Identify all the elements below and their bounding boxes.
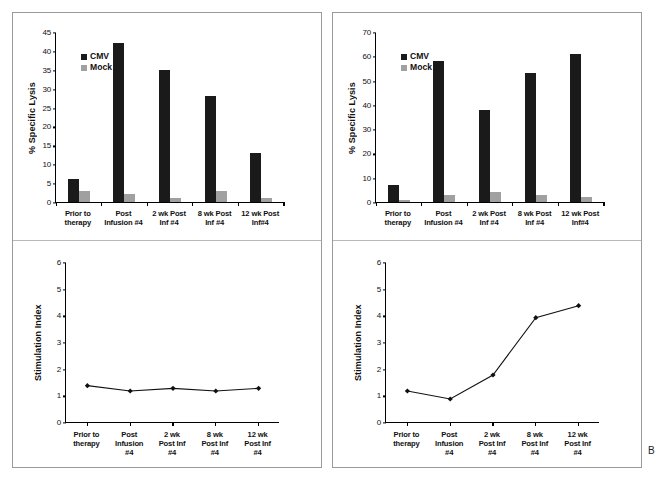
bar-cmv <box>388 185 399 202</box>
y-axis-tick-mark <box>63 342 67 343</box>
x-axis-tick-mark <box>56 202 57 206</box>
chart-legend: CMVMock <box>81 51 112 73</box>
x-axis-tick-mark <box>407 422 408 426</box>
y-axis-tick-mark <box>63 289 67 290</box>
bar-cmv <box>159 70 170 202</box>
y-axis-tick-mark <box>383 342 387 343</box>
x-axis-tick-label: 12 wk Post Inf#4 <box>551 209 609 227</box>
legend-label-cmv: CMV <box>90 51 109 62</box>
y-axis-tick-mark <box>383 289 387 290</box>
bar-cmv <box>68 179 79 202</box>
bar-mock <box>581 197 592 202</box>
y-axis-title: % Specific Lysis <box>27 33 37 203</box>
bar-mock <box>79 191 90 202</box>
legend-item-mock: Mock <box>401 62 432 73</box>
chart-bottom-left-line: 0123456Stimulation IndexPrior to therapy… <box>13 241 321 468</box>
legend-item-cmv: CMV <box>81 51 112 62</box>
y-axis-title: Stimulation Index <box>33 263 43 423</box>
data-point <box>448 396 453 401</box>
y-axis-tick-mark <box>383 262 387 263</box>
x-axis-tick-mark <box>130 422 131 426</box>
y-axis-tick-mark <box>383 316 387 317</box>
x-axis-tick-mark <box>101 202 102 206</box>
x-axis-tick-mark <box>258 422 259 426</box>
plot-area: 0123456 <box>65 263 279 423</box>
x-axis-tick-mark <box>578 422 579 426</box>
x-axis-tick-mark <box>215 422 216 426</box>
bar-group <box>238 32 284 202</box>
panel-letter: B <box>648 445 655 456</box>
chart-top-right-bar: 010203040506070% Specific LysisPrior to … <box>333 13 641 240</box>
bar-cmv <box>113 43 124 202</box>
bar-group <box>558 32 604 202</box>
y-axis-tick-mark <box>383 422 387 423</box>
x-axis-tick-label: 12 wk Post Inf #4 <box>552 430 603 458</box>
line-series <box>386 263 600 423</box>
bar-mock <box>216 191 227 202</box>
x-axis-tick-mark <box>283 202 284 206</box>
legend-item-mock: Mock <box>81 62 112 73</box>
x-axis-tick-mark <box>172 422 173 426</box>
bar-cmv <box>479 110 490 202</box>
x-axis-tick-mark <box>147 202 148 206</box>
y-axis-tick-mark <box>63 262 67 263</box>
data-point <box>576 303 581 308</box>
line-series <box>66 263 280 423</box>
x-axis-tick-mark <box>192 202 193 206</box>
y-axis-tick-mark <box>63 396 67 397</box>
x-axis-tick-mark <box>238 202 239 206</box>
bar-cmv <box>205 96 216 202</box>
bar-mock <box>444 195 455 202</box>
bar-mock <box>399 200 410 202</box>
y-axis-title: % Specific Lysis <box>347 33 357 203</box>
x-axis-tick-mark <box>558 202 559 206</box>
chart-top-left-bar: 051015202530354045% Specific LysisPrior … <box>13 13 321 240</box>
x-axis-tick-mark <box>492 422 493 426</box>
y-axis-tick-mark <box>63 316 67 317</box>
y-axis-tick-mark <box>383 369 387 370</box>
x-axis-tick-mark <box>87 422 88 426</box>
legend-label-mock: Mock <box>90 62 112 73</box>
figure-root: 051015202530354045% Specific LysisPrior … <box>0 0 664 480</box>
data-point <box>405 388 410 393</box>
y-axis-tick-mark <box>63 369 67 370</box>
x-axis-tick-mark <box>603 202 604 206</box>
bar-cmv <box>433 61 444 202</box>
bar-group <box>147 32 193 202</box>
y-axis-tick-mark <box>63 422 67 423</box>
plot-area: 0123456 <box>385 263 599 423</box>
data-point <box>256 386 261 391</box>
chart-legend: CMVMock <box>401 51 432 73</box>
chart-bottom-right-line: 0123456Stimulation IndexPrior to therapy… <box>333 241 641 468</box>
bar-mock <box>170 198 181 202</box>
bar-mock <box>261 198 272 202</box>
bar-group <box>193 32 239 202</box>
legend-swatch-cmv <box>401 54 407 60</box>
x-axis-tick-mark <box>535 422 536 426</box>
bar-mock <box>536 195 547 202</box>
bar-group <box>467 32 513 202</box>
x-axis-tick-mark <box>421 202 422 206</box>
legend-label-mock: Mock <box>410 62 432 73</box>
legend-swatch-cmv <box>81 54 87 60</box>
bar-cmv <box>250 153 261 202</box>
bar-group <box>513 32 559 202</box>
x-axis-tick-mark <box>467 202 468 206</box>
x-axis-tick-mark <box>512 202 513 206</box>
line-path <box>407 306 578 399</box>
data-point <box>170 386 175 391</box>
panel-right: 010203040506070% Specific LysisPrior to … <box>332 12 642 468</box>
bar-mock <box>490 192 501 202</box>
legend-label-cmv: CMV <box>410 51 429 62</box>
bar-cmv <box>570 54 581 202</box>
bar-cmv <box>525 73 536 202</box>
x-axis-tick-mark <box>450 422 451 426</box>
x-axis-tick-label: 12 wk Post Inf#4 <box>231 209 289 227</box>
bar-mock <box>124 194 135 202</box>
data-point <box>85 383 90 388</box>
x-axis-tick-mark <box>376 202 377 206</box>
legend-item-cmv: CMV <box>401 51 432 62</box>
legend-swatch-mock <box>401 65 407 71</box>
data-point <box>128 388 133 393</box>
panel-left: 051015202530354045% Specific LysisPrior … <box>12 12 322 468</box>
